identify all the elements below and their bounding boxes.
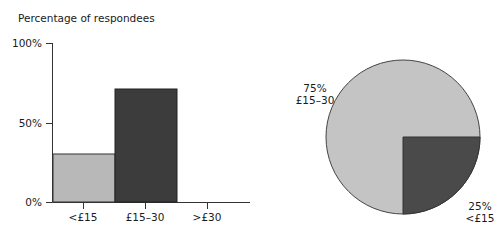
bar-15-30 [115, 89, 177, 202]
pie-cat-15-30: £15–30 [290, 94, 340, 106]
xcat-under-15: <£15 [53, 211, 113, 223]
chart-canvas [0, 0, 501, 232]
pie-pct-15-30: 75% [290, 82, 340, 94]
xcat-15-30: £15–30 [115, 211, 175, 223]
xcat-over-30: >£30 [177, 211, 237, 223]
pie-label-15-30: 75% £15–30 [290, 82, 340, 106]
pie-chart [326, 60, 480, 214]
pie-cat-under-15: <£15 [460, 212, 500, 224]
pie-label-under-15: 25% <£15 [460, 200, 500, 224]
pie-pct-under-15: 25% [460, 200, 500, 212]
bar-under-15 [53, 154, 115, 202]
